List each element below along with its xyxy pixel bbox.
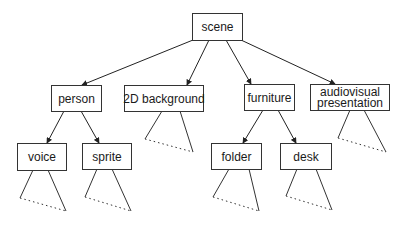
subtree-dotted-base <box>286 196 332 210</box>
node-furniture: furniture <box>245 85 295 111</box>
subtree-dotted-base <box>338 138 386 152</box>
node-label: furniture <box>247 91 291 105</box>
subtree-dotted-base <box>20 198 66 211</box>
edge-furniture-to-desk <box>278 110 296 143</box>
subtree-right-edge <box>249 169 259 211</box>
node-label: scene <box>201 20 233 34</box>
subtree-right-edge <box>180 111 193 152</box>
node-2d-background: 2D background <box>123 86 204 112</box>
node-label: presentation <box>317 96 383 110</box>
subtree-2d-background <box>145 111 193 152</box>
subtree-desk <box>286 169 332 210</box>
node-sprite: sprite <box>83 144 132 170</box>
node-audiovisual-presentation: audiovisualpresentation <box>311 85 390 111</box>
node-person: person <box>52 86 102 112</box>
edge-person-to-sprite <box>81 111 99 143</box>
node-folder: folder <box>212 144 262 170</box>
node-label: folder <box>221 150 251 164</box>
node-label: person <box>58 92 95 106</box>
tree-diagram: sceneperson2D backgroundfurnitureaudiovi… <box>0 0 404 225</box>
subtree-audiovisual-presentation <box>338 110 386 152</box>
edge-scene-to-2d-background <box>187 40 209 85</box>
node-scene: scene <box>193 14 243 41</box>
subtree-folder <box>213 169 259 211</box>
node-label: voice <box>28 150 56 164</box>
edge-scene-to-furniture <box>226 40 251 84</box>
node-voice: voice <box>18 144 67 171</box>
subtree-dotted-base <box>145 139 193 152</box>
subtree-left-edge <box>20 170 33 198</box>
subtree-left-edge <box>145 111 162 139</box>
node-label: 2D background <box>123 92 204 106</box>
edge-person-to-voice <box>47 111 64 143</box>
node-label: desk <box>293 150 319 164</box>
subtree-left-edge <box>213 169 229 197</box>
edge-scene-to-audiovisual-presentation <box>241 40 335 84</box>
node-desk: desk <box>281 144 332 170</box>
subtree-right-edge <box>112 169 131 211</box>
subtree-sprite <box>85 169 131 211</box>
node-label: sprite <box>92 150 122 164</box>
edge-furniture-to-folder <box>243 110 263 143</box>
edge-scene-to-person <box>82 40 193 85</box>
subtree-left-edge <box>85 169 97 197</box>
subtree-right-edge <box>364 110 386 152</box>
subtree-left-edge <box>338 110 350 138</box>
subtree-dotted-base <box>85 197 131 211</box>
subtree-right-edge <box>48 170 66 211</box>
nodes: sceneperson2D backgroundfurnitureaudiovi… <box>18 14 390 171</box>
subtree-left-edge <box>286 169 297 196</box>
subtree-right-edge <box>316 169 332 210</box>
subtree-dotted-base <box>213 197 259 211</box>
subtree-voice <box>20 170 66 211</box>
